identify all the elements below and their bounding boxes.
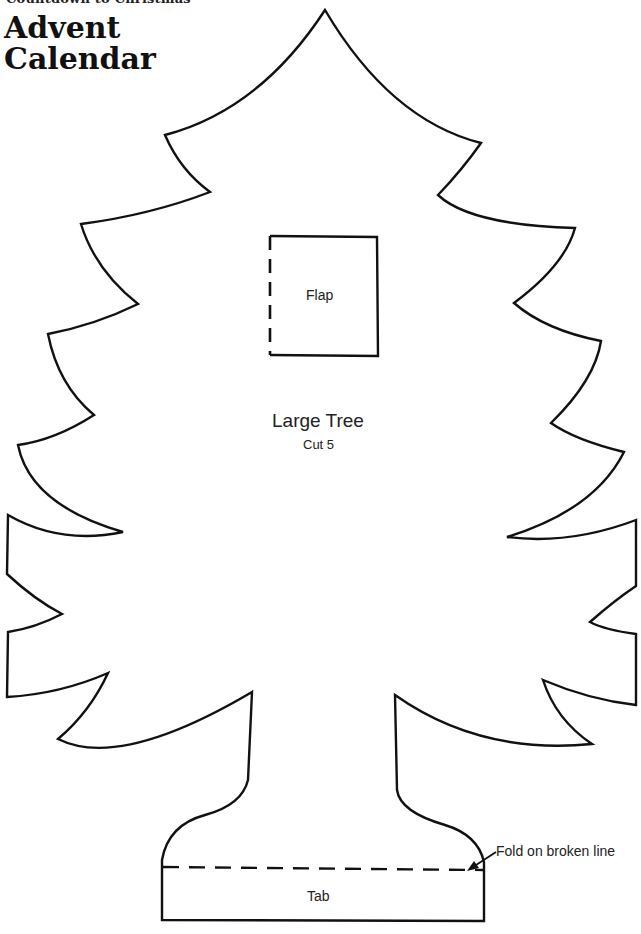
tree-outline — [7, 10, 636, 921]
pattern-name: Large Tree — [272, 410, 364, 432]
flap-label: Flap — [306, 287, 333, 303]
tab-fold-line — [163, 867, 483, 870]
tree-pattern — [0, 0, 641, 934]
tab-label: Tab — [307, 888, 330, 904]
cut-instruction: Cut 5 — [303, 437, 334, 452]
fold-note: Fold on broken line — [496, 843, 615, 859]
